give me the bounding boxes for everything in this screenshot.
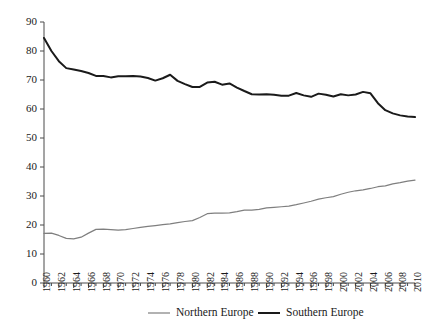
x-tick-label: 1976: [160, 272, 171, 292]
y-tick-label: 70: [26, 73, 38, 85]
y-tick-label: 30: [26, 189, 38, 201]
y-tick-label: 0: [32, 276, 38, 288]
x-tick-label: 1992: [279, 272, 290, 292]
x-tick-label: 1996: [308, 272, 319, 292]
y-tick-label: 40: [26, 160, 38, 172]
x-tick-label: 1960: [41, 272, 52, 292]
x-tick-label: 1980: [190, 272, 201, 292]
y-tick-label: 20: [26, 218, 38, 230]
y-tick-label: 90: [26, 15, 38, 27]
x-tick-label: 2006: [383, 272, 394, 292]
x-tick-label: 1970: [115, 272, 126, 292]
x-tick-label: 1986: [234, 272, 245, 292]
x-tick-label: 1964: [71, 272, 82, 292]
chart-container: 0102030405060708090 19601962196419661968…: [0, 0, 432, 334]
x-tick-label: 1968: [101, 272, 112, 292]
x-tick-label: 2008: [397, 272, 408, 292]
x-tick-label: 2004: [368, 272, 379, 292]
y-tick-label: 10: [26, 247, 38, 259]
x-tick-label: 2000: [338, 272, 349, 292]
x-tick-label: 2002: [353, 272, 364, 292]
series-line-1: [44, 38, 415, 117]
x-tick-label: 1978: [175, 272, 186, 292]
legend-label-1: Southern Europe: [286, 306, 364, 319]
x-tick-label: 1972: [130, 272, 141, 292]
x-tick-label: 1962: [56, 272, 67, 292]
x-tick-label: 1974: [145, 272, 156, 292]
y-axis: 0102030405060708090: [26, 15, 44, 288]
x-tick-label: 1982: [205, 272, 216, 292]
series-line-0: [44, 180, 415, 239]
y-tick-label: 50: [26, 131, 38, 143]
x-tick-label: 2010: [412, 272, 423, 292]
y-tick-label: 60: [26, 102, 38, 114]
x-tick-label: 1994: [294, 272, 305, 292]
legend-label-0: Northern Europe: [176, 306, 254, 319]
chart-legend: Northern EuropeSouthern Europe: [148, 306, 364, 319]
x-axis: 1960196219641966196819701972197419761978…: [41, 272, 423, 292]
x-tick-label: 1998: [323, 272, 334, 292]
line-chart: 0102030405060708090 19601962196419661968…: [0, 0, 432, 334]
y-tick-label: 80: [26, 44, 38, 56]
x-tick-label: 1990: [264, 272, 275, 292]
series-lines: [44, 38, 415, 239]
x-tick-label: 1984: [219, 272, 230, 292]
x-tick-label: 1966: [86, 272, 97, 292]
x-tick-label: 1988: [249, 272, 260, 292]
